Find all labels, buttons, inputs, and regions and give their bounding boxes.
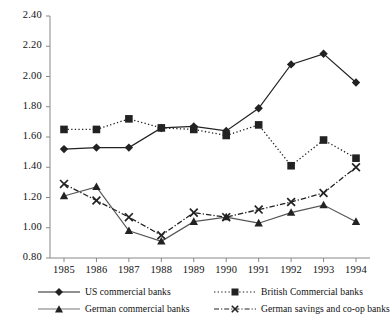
data-point-diamond xyxy=(92,143,100,151)
data-point-triangle xyxy=(352,217,360,225)
series-us-commercial-banks xyxy=(60,50,360,154)
legend-item-us-commercial-banks[interactable]: US commercial banks xyxy=(36,283,212,300)
legend-label: German savings and co-op banks xyxy=(258,303,390,314)
data-point-square xyxy=(287,162,295,170)
legend-swatch-dashdot-cross xyxy=(212,302,258,316)
legend-label: German commercial banks xyxy=(82,303,190,314)
data-point-cross xyxy=(320,189,328,197)
data-point-triangle xyxy=(92,183,100,191)
data-point-square xyxy=(255,121,263,129)
y-tick-label: 2.40 xyxy=(8,9,42,20)
y-tick-label: 1.20 xyxy=(8,191,42,202)
data-point-triangle xyxy=(319,201,327,209)
y-axis-ticks xyxy=(46,16,50,258)
data-point-cross xyxy=(93,197,101,205)
y-tick-label: 2.20 xyxy=(8,39,42,50)
legend-label: British Commercial banks xyxy=(258,286,363,297)
y-tick-label: 0.80 xyxy=(8,251,42,262)
legend-swatch-solid-diamond xyxy=(36,285,82,299)
data-point-square xyxy=(190,126,198,134)
y-tick-label: 1.60 xyxy=(8,130,42,141)
chart-series-group xyxy=(60,50,360,245)
series-line xyxy=(64,54,356,149)
data-point-square xyxy=(93,126,101,134)
x-tick-label: 1994 xyxy=(336,264,376,275)
data-point-square xyxy=(60,126,68,134)
legend-label: US commercial banks xyxy=(82,286,171,297)
data-point-diamond xyxy=(60,145,68,153)
legend-item-british-commercial-banks[interactable]: British Commercial banks xyxy=(212,283,382,300)
legend-swatch-dotted-square xyxy=(212,285,258,299)
data-point-cross xyxy=(125,213,133,221)
data-point-diamond xyxy=(125,143,133,151)
data-point-square xyxy=(158,124,166,132)
series-line xyxy=(64,119,356,166)
y-tick-label: 1.40 xyxy=(8,160,42,171)
series-line xyxy=(64,187,356,241)
data-point-cross xyxy=(352,163,360,171)
data-point-cross xyxy=(287,198,295,206)
series-british-commercial-banks xyxy=(60,115,360,169)
series-german-commercial-banks xyxy=(60,183,360,245)
y-tick-label: 2.00 xyxy=(8,70,42,81)
data-point-diamond xyxy=(254,104,262,112)
x-axis-ticks xyxy=(64,258,356,262)
data-point-diamond xyxy=(287,60,295,68)
data-point-cross xyxy=(60,180,68,188)
legend-swatch-solid-triangle xyxy=(36,302,82,316)
data-point-square xyxy=(320,136,328,144)
y-tick-label: 1.00 xyxy=(8,221,42,232)
data-point-square xyxy=(352,154,360,162)
data-point-square xyxy=(125,115,133,123)
legend-item-german-savings-coop-banks[interactable]: German savings and co-op banks xyxy=(212,300,382,317)
chart-legend: US commercial banks British Commercial b… xyxy=(36,283,382,317)
legend-item-german-commercial-banks[interactable]: German commercial banks xyxy=(36,300,212,317)
series-german-savings-and-co-op-banks xyxy=(60,163,360,239)
data-point-square xyxy=(222,132,230,140)
y-tick-label: 1.80 xyxy=(8,100,42,111)
